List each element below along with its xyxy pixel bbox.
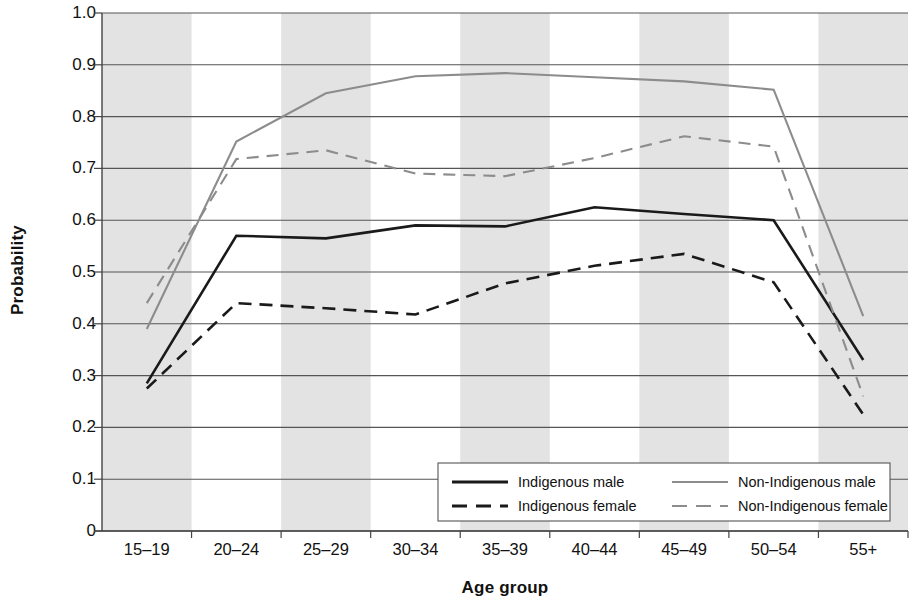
legend: Indigenous maleIndigenous femaleNon-Indi… xyxy=(438,463,890,521)
legend-label: Indigenous male xyxy=(518,474,624,490)
chart-canvas: Indigenous maleIndigenous femaleNon-Indi… xyxy=(0,0,916,611)
legend-label: Non-Indigenous male xyxy=(738,474,876,490)
probability-by-age-group-line-chart: Probability 1.00.90.80.70.60.50.40.30.20… xyxy=(0,0,916,611)
legend-label: Indigenous female xyxy=(518,498,637,514)
legend-label: Non-Indigenous female xyxy=(738,498,888,514)
